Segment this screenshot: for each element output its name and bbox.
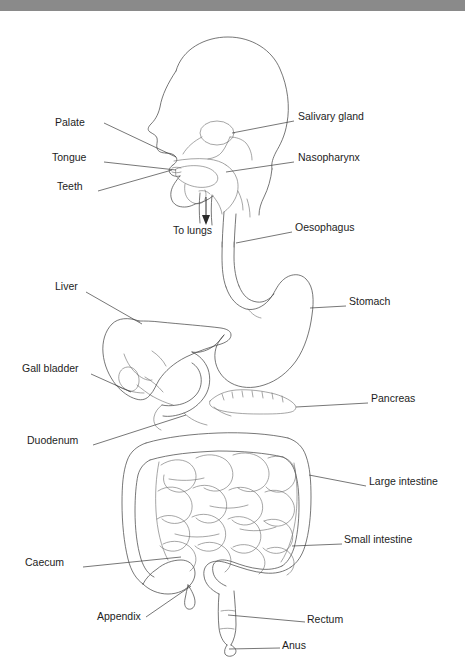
window-title [0, 0, 465, 9]
label-anus: Anus [282, 639, 306, 651]
teeth-row [172, 167, 181, 168]
pancreas-lobulation-3 [242, 391, 243, 397]
trachea-right-wall [211, 195, 212, 225]
label-stomach: Stomach [349, 295, 390, 307]
leader-gallbladder [91, 374, 131, 392]
digestive-system-figure [0, 11, 465, 671]
label-palate: Palate [55, 116, 85, 128]
leader-stomach [310, 306, 346, 308]
skull-outline [176, 37, 288, 169]
rectal-valve-2 [220, 628, 234, 629]
anal-canal-outline [225, 645, 236, 656]
label-appendix: Appendix [97, 610, 141, 622]
diagram-canvas: Palate Tongue Teeth Salivary gland Nasop… [0, 11, 465, 671]
rectum-outline [218, 594, 227, 645]
small-intestine-coil-n [198, 542, 231, 572]
leader-palate [104, 123, 176, 157]
pancreas-lobulation-5 [262, 392, 263, 398]
hard-palate-line [174, 159, 226, 165]
leader-oesophagus [236, 232, 292, 243]
label-tongue: Tongue [52, 151, 86, 163]
rectum-outline-right [231, 591, 236, 645]
pancreas-lobulation-1 [222, 394, 224, 400]
label-gall-bladder: Gall bladder [22, 362, 79, 374]
leader-salivary [232, 121, 294, 133]
label-to-lungs: To lungs [173, 224, 212, 236]
label-large-intestine: Large intestine [369, 475, 438, 487]
leader-anus [229, 648, 280, 649]
small-intestine-coil-j [192, 514, 226, 551]
leader-nasopharynx [226, 162, 294, 172]
teeth-lower [172, 172, 181, 173]
pancreas-lobulation-4 [252, 391, 253, 397]
cystic-duct [137, 385, 152, 396]
label-pancreas: Pancreas [371, 392, 415, 404]
duodenum-jejunal-flexure [184, 413, 207, 425]
stomach-antrum-pylorus [192, 335, 224, 352]
large-intestine-group [122, 433, 311, 657]
label-oesophagus: Oesophagus [295, 221, 355, 233]
tongue-body [176, 166, 218, 188]
neck-fold-b [247, 199, 250, 217]
leader-rectum [228, 615, 305, 622]
small-intestine-coil-f [193, 485, 227, 523]
leader-large-int [309, 475, 366, 486]
label-duodenum: Duodenum [27, 434, 78, 446]
forehead-face-profile [148, 71, 176, 153]
small-intestine-coil-c [233, 453, 269, 492]
sigmoid-colon-outer [204, 561, 291, 594]
oral-cavity-group [172, 121, 252, 217]
salivary-duct [183, 137, 202, 154]
label-nasopharynx: Nasopharynx [298, 151, 360, 163]
pancreas-lobulation-2 [232, 392, 233, 398]
stomach-group [192, 275, 313, 388]
duodenum-lower-loop [154, 405, 162, 430]
label-caecum: Caecum [25, 556, 64, 568]
neck-back-line [259, 169, 272, 215]
hyoid-arc [199, 191, 210, 194]
nasal-passage [230, 137, 252, 160]
oesophagus-right-wall [234, 214, 239, 286]
jaw-neck-line [195, 196, 213, 204]
pancreas-lobulation-6 [272, 393, 273, 399]
neck-fold-a [238, 191, 243, 210]
label-rectum: Rectum [307, 613, 343, 625]
small-intestine-mesentery-edge [156, 462, 168, 560]
transverse-colon-upper [146, 433, 288, 443]
duodenum-outer [163, 352, 210, 416]
stomach-fundus-fold [248, 309, 261, 318]
ascending-colon-inner [135, 460, 154, 577]
label-teeth: Teeth [57, 180, 83, 192]
leader-tongue [104, 162, 176, 170]
oesophagus-left-wall [222, 212, 226, 287]
small-intestine-coil-d [266, 456, 296, 492]
soft-palate-curve [208, 137, 230, 159]
rectal-valve-1 [221, 610, 235, 611]
leader-liver [86, 292, 142, 324]
descending-colon-outer [288, 438, 311, 567]
salivary-gland-shape [200, 121, 234, 145]
trachea-left-wall [199, 193, 200, 223]
label-salivary-gland: Salivary gland [298, 110, 364, 122]
label-small-intestine: Small intestine [344, 533, 412, 545]
oesophagus-group [222, 212, 239, 287]
leader-caecum [83, 557, 181, 567]
small-intestine-cross-loop-4 [240, 527, 276, 531]
leader-small-int [292, 544, 342, 546]
chin-profile [171, 176, 195, 207]
leader-pancreas [296, 403, 368, 407]
small-intestine-coil-g [229, 487, 263, 525]
small-intestine-coil-e [158, 487, 192, 523]
small-intestine-coil-m [163, 541, 196, 571]
small-intestine-group [156, 453, 297, 575]
small-intestine-coil-k [228, 517, 261, 554]
common-bile-duct [152, 396, 173, 405]
leader-teeth [98, 170, 172, 191]
small-intestine-coil-p [267, 547, 294, 575]
pancreas-tail-fold [214, 407, 231, 416]
small-intestine-cross-loop-1 [169, 478, 204, 480]
label-liver: Liver [55, 280, 78, 292]
window-title-bar [0, 0, 465, 11]
pancreas-group [209, 390, 295, 416]
leader-duodenum [93, 415, 186, 445]
